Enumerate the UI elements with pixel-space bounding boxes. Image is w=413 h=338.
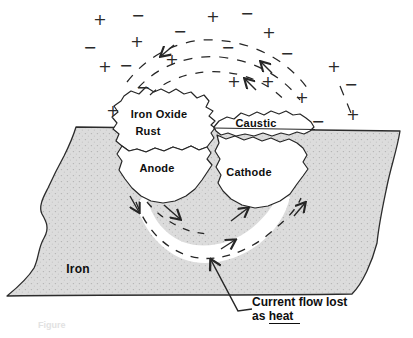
minus-ion: − — [131, 8, 144, 24]
minus-ion: − — [311, 114, 324, 130]
label-iron-oxide: Iron Oxide — [131, 108, 187, 120]
minus-ion: − — [119, 58, 132, 74]
plus-ion: + — [227, 74, 240, 90]
plus-ion: + — [130, 34, 143, 50]
label-iron: Iron — [66, 262, 89, 276]
annotation-line2-prefix: as — [252, 309, 269, 323]
plus-ion: + — [295, 90, 308, 106]
plus-ion: + — [261, 74, 274, 90]
annotation-line1: Current flow lost — [252, 296, 347, 310]
annotation-line2: as heat — [252, 310, 347, 324]
minus-ion: − — [344, 77, 357, 93]
minus-ion: − — [136, 80, 149, 96]
plus-ion: + — [165, 52, 178, 68]
minus-ion: − — [240, 6, 253, 22]
plus-ion: + — [93, 12, 106, 28]
minus-ion: − — [83, 40, 96, 56]
ion-layer: ++++++++++++−−−−−−−−−− — [0, 0, 413, 338]
label-anode: Anode — [139, 162, 174, 174]
plus-ion: + — [262, 25, 275, 41]
plus-ion: + — [346, 107, 359, 123]
corrosion-cell-diagram: ++++++++++++−−−−−−−−−− Iron Oxide Rust C… — [0, 0, 413, 338]
label-caustic: Caustic — [235, 117, 276, 129]
plus-ion: + — [206, 9, 219, 25]
annotation-current-flow: Current flow lost as heat — [252, 296, 347, 323]
plus-ion: + — [106, 103, 119, 119]
minus-ion: − — [280, 46, 293, 62]
minus-ion: − — [221, 40, 234, 56]
heat-word: heat — [269, 309, 301, 324]
plus-ion: + — [327, 59, 340, 75]
minus-ion: − — [173, 24, 186, 40]
label-rust: Rust — [135, 125, 160, 137]
plus-ion: + — [98, 59, 111, 75]
label-cathode: Cathode — [226, 166, 271, 178]
